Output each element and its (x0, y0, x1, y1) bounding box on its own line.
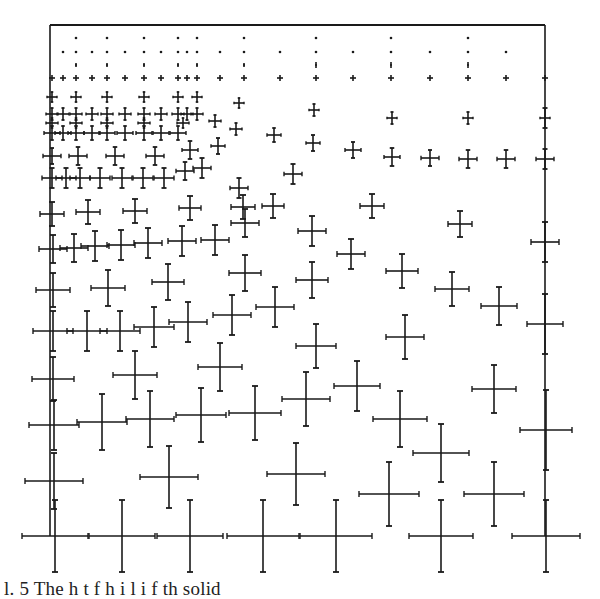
data-point (464, 462, 524, 526)
data-point (143, 51, 146, 54)
data-point (409, 500, 473, 572)
data-point (390, 37, 393, 40)
data-point (176, 388, 226, 442)
data-point (169, 302, 207, 342)
data-point (86, 108, 98, 120)
data-point (106, 37, 109, 40)
data-point (177, 63, 179, 67)
data-point (243, 63, 245, 67)
data-point (102, 92, 112, 102)
data-point (143, 37, 146, 40)
point-dot (62, 51, 65, 54)
data-point (76, 200, 100, 224)
data-point (179, 196, 201, 220)
data-point (139, 92, 149, 102)
data-point (315, 51, 318, 54)
data-point (386, 315, 424, 359)
point-dot (186, 51, 189, 54)
data-point (234, 98, 244, 108)
point-dot (243, 37, 246, 40)
data-point (467, 37, 470, 40)
point-dot (390, 37, 393, 40)
data-point (384, 148, 400, 166)
data-point (390, 51, 393, 54)
data-point (141, 75, 147, 81)
data-point (133, 168, 153, 188)
point-dot (196, 37, 199, 40)
data-point (390, 62, 392, 68)
data-point (531, 222, 559, 262)
data-point (193, 158, 211, 178)
data-point (134, 228, 162, 258)
data-point (536, 149, 554, 169)
data-point (421, 150, 439, 166)
data-point (196, 63, 198, 67)
point-dot (352, 51, 355, 54)
point-dot (106, 51, 109, 54)
point-dot (160, 51, 163, 54)
point-dot (124, 51, 127, 54)
data-point (153, 126, 169, 140)
data-point (201, 225, 229, 255)
data-point (175, 75, 181, 81)
data-point (300, 500, 372, 572)
data-point (315, 62, 317, 68)
data-point (168, 226, 196, 256)
data-point (359, 462, 419, 526)
point-dot (467, 37, 470, 40)
point-dot (505, 51, 508, 54)
data-point (73, 75, 79, 81)
data-point (352, 51, 355, 54)
data-point (243, 51, 246, 54)
data-point (117, 126, 133, 140)
data-point (182, 141, 198, 159)
point-dot (143, 51, 146, 54)
data-point (360, 194, 384, 218)
data-point (198, 343, 242, 391)
data-point (337, 239, 365, 269)
error-bar-points (22, 37, 580, 572)
data-point (229, 255, 261, 291)
data-point (176, 162, 194, 180)
data-point (481, 287, 517, 325)
data-point (241, 75, 247, 81)
data-point (256, 287, 294, 327)
data-point (282, 372, 330, 426)
data-point (313, 75, 319, 81)
data-point (155, 108, 167, 120)
point-dot (219, 51, 222, 54)
data-point (134, 307, 174, 347)
data-point (279, 51, 282, 54)
data-point (309, 104, 319, 116)
data-point (157, 500, 223, 572)
data-point (219, 51, 222, 54)
data-point (124, 51, 127, 54)
data-point (106, 147, 124, 165)
figure-caption: l. 5 The h t f h i l i f th solid (4, 578, 596, 599)
data-point (345, 142, 361, 158)
data-point (47, 92, 57, 102)
data-point (306, 135, 320, 151)
point-dot (75, 51, 78, 54)
data-point (231, 209, 259, 237)
data-point (158, 75, 164, 81)
data-point (267, 128, 281, 142)
data-point (386, 254, 418, 288)
data-point (542, 75, 548, 81)
data-point (231, 195, 255, 219)
data-point (62, 51, 65, 54)
data-point (91, 270, 125, 306)
data-point (143, 63, 145, 67)
data-point (40, 202, 64, 226)
data-point (186, 51, 189, 54)
data-point (435, 272, 469, 306)
data-point (29, 400, 79, 450)
point-dot (429, 51, 432, 54)
data-point (277, 75, 283, 81)
data-point (465, 75, 471, 81)
data-point (512, 500, 580, 572)
data-point (112, 168, 132, 188)
data-point (99, 126, 115, 140)
point-dot (177, 37, 180, 40)
